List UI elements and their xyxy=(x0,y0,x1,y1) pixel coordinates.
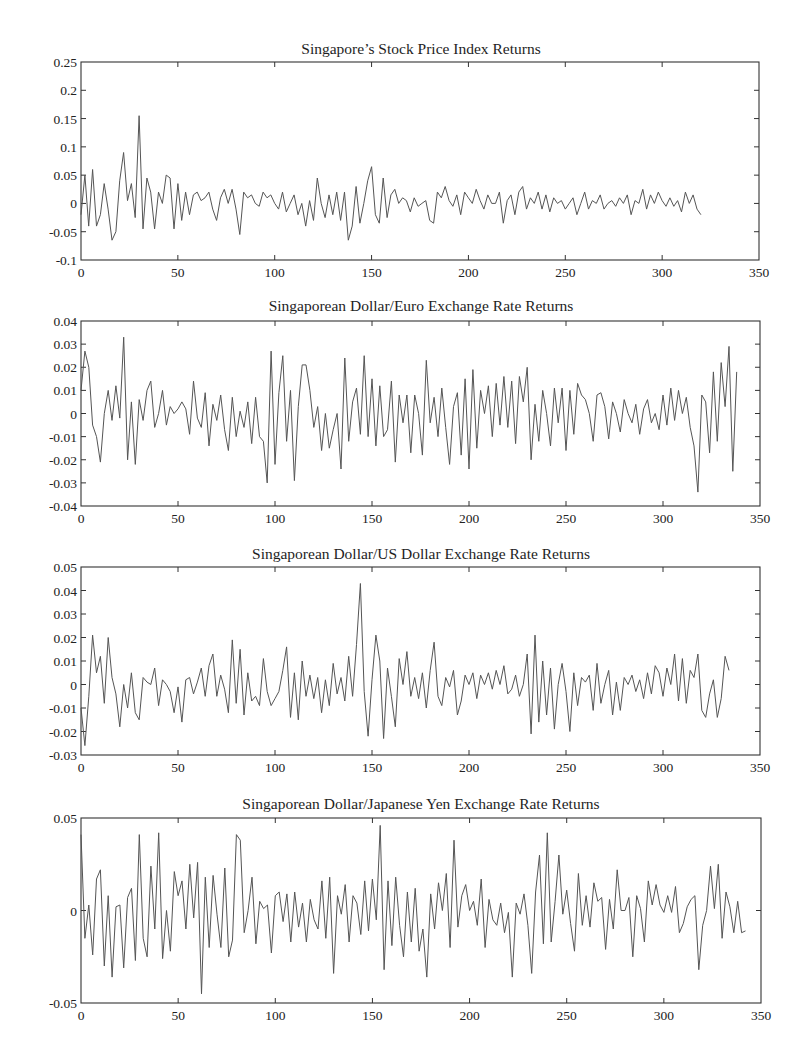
y-tick-label: -0.05 xyxy=(49,996,77,1011)
x-tick-label: 0 xyxy=(78,1008,85,1023)
chart-panel-sgd-jpy: Singaporean Dollar/Japanese Yen Exchange… xyxy=(0,0,808,1053)
data-series-line xyxy=(81,825,746,993)
x-tick-label: 350 xyxy=(751,1008,772,1023)
line-chart-sgd-jpy: 0501001502002503003500.050-0.05 xyxy=(0,0,808,1053)
x-tick-label: 50 xyxy=(171,1008,185,1023)
y-tick-label: 0 xyxy=(70,904,77,919)
x-tick-label: 200 xyxy=(459,1008,480,1023)
x-tick-label: 150 xyxy=(362,1008,383,1023)
y-tick-label: 0.05 xyxy=(53,811,77,826)
x-tick-label: 100 xyxy=(265,1008,286,1023)
x-tick-label: 300 xyxy=(654,1008,675,1023)
x-tick-label: 250 xyxy=(557,1008,578,1023)
plot-area-frame xyxy=(81,818,761,1003)
